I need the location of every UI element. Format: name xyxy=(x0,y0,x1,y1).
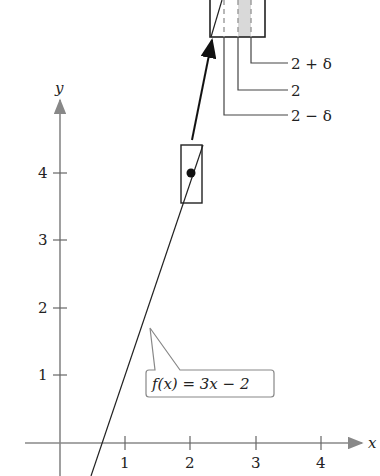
function-line xyxy=(91,145,203,476)
function-label: f(x) = 3x − 2 xyxy=(151,375,249,393)
x-tick-label: 3 xyxy=(251,454,261,472)
x-tick-label: 1 xyxy=(120,454,130,472)
y-axis-label: y xyxy=(54,79,64,97)
x-tick-label: 4 xyxy=(316,454,326,472)
magnified-box xyxy=(210,0,265,37)
y-tick-label: 2 xyxy=(38,299,48,317)
delta-label-center: 2 xyxy=(291,82,301,100)
y-tick-label: 3 xyxy=(38,231,48,249)
y-tick-label: 1 xyxy=(38,366,48,384)
zoom-arrow xyxy=(192,40,212,140)
x-tick-label: 2 xyxy=(185,454,195,472)
delta-label-upper: 2 + δ xyxy=(291,55,332,73)
delta-label-lower: 2 − δ xyxy=(291,107,332,125)
point-2-4 xyxy=(187,169,196,178)
x-axis-label: x xyxy=(368,434,377,452)
delta-leaders xyxy=(224,37,288,115)
y-tick-label: 4 xyxy=(38,164,48,182)
epsilon-delta-diagram: 1 2 3 4 4 3 2 1 x y 2 + δ 2 2 − δ f(x) =… xyxy=(0,0,380,476)
